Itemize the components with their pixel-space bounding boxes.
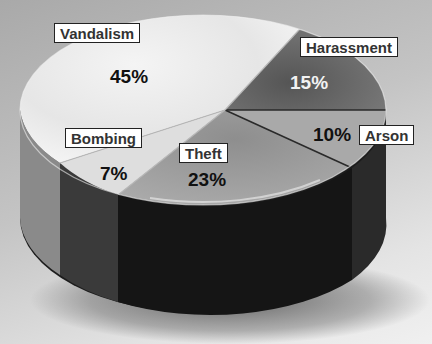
pct-theft: 23% bbox=[188, 169, 226, 191]
label-theft: Theft bbox=[179, 143, 228, 163]
label-bombing: Bombing bbox=[65, 128, 142, 148]
pct-harassment: 15% bbox=[290, 72, 328, 94]
label-harassment: Harassment bbox=[300, 37, 398, 57]
pct-vandalism: 45% bbox=[110, 66, 148, 88]
pct-bombing: 7% bbox=[100, 163, 127, 185]
pct-arson: 10% bbox=[313, 124, 351, 146]
label-vandalism: Vandalism bbox=[54, 23, 140, 43]
label-arson: Arson bbox=[359, 125, 414, 145]
